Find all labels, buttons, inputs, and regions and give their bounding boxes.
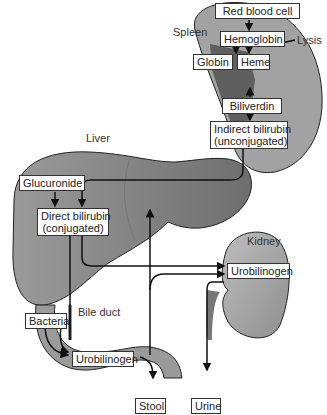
- node-hemoglobin: Hemoglobin: [220, 31, 285, 47]
- node-urobilinogen-kidney: Urobilinogen: [227, 263, 290, 279]
- node-indirect-bilirubin-sub: (unconjugated): [214, 135, 284, 147]
- node-urine: Urine: [191, 398, 221, 414]
- node-heme: Heme: [237, 54, 270, 70]
- node-indirect-bilirubin-title: Indirect bilirubin: [214, 123, 284, 135]
- label-spleen: Spleen: [173, 26, 207, 38]
- node-glucuronide: Glucuronide: [19, 175, 85, 191]
- label-liver: Liver: [86, 132, 110, 144]
- kidney-shape: [206, 232, 289, 340]
- bilirubin-metabolism-diagram: Spleen Lysis Liver Kidney Bile duct Red …: [0, 0, 327, 415]
- node-biliverdin: Biliverdin: [222, 98, 282, 114]
- label-lysis: Lysis: [297, 34, 322, 46]
- node-globin: Globin: [193, 54, 233, 70]
- label-kidney: Kidney: [247, 235, 281, 247]
- node-direct-bilirubin-title: Direct bilirubin: [41, 210, 105, 222]
- node-direct-bilirubin-sub: (conjugated): [41, 222, 105, 234]
- node-stool: Stool: [135, 398, 166, 414]
- node-direct-bilirubin: Direct bilirubin (conjugated): [37, 208, 109, 236]
- node-bacteria: Bacteria: [25, 313, 67, 329]
- node-red-blood-cell: Red blood cell: [215, 3, 300, 19]
- node-indirect-bilirubin: Indirect bilirubin (unconjugated): [210, 121, 288, 149]
- label-bile-duct: Bile duct: [78, 306, 120, 318]
- node-urobilinogen-intestine: Urobilinogen: [72, 351, 134, 367]
